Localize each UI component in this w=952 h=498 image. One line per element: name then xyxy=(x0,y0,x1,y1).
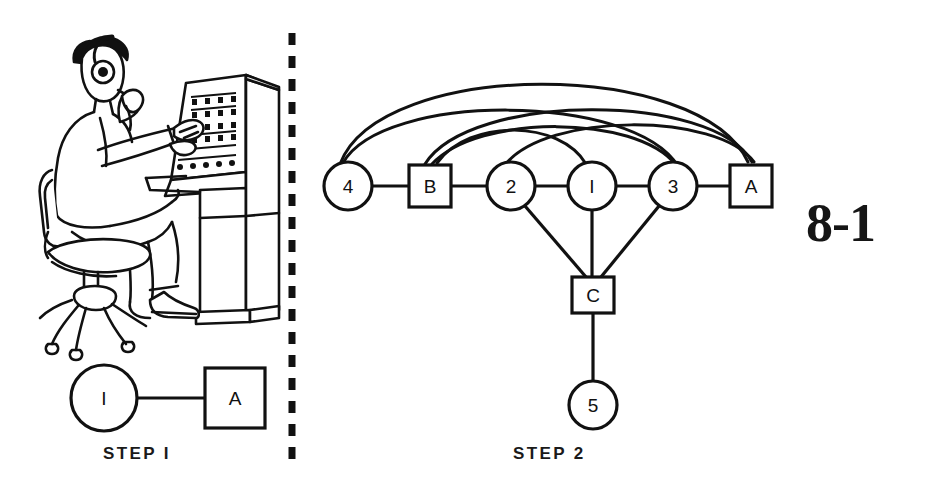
step2-node-C-label: C xyxy=(586,285,600,306)
figure-page: I A xyxy=(0,0,952,498)
step2-node-4-label: 4 xyxy=(343,176,354,197)
step1-caption: STEP I xyxy=(103,444,171,464)
step2-link-3-C xyxy=(601,206,659,277)
step2-caption: STEP 2 xyxy=(513,444,586,464)
figure-number: 8-1 xyxy=(806,196,875,250)
step2-node-B-label: B xyxy=(424,176,437,197)
step2-node-5-label: 5 xyxy=(588,395,599,416)
step2-node-2-label: 2 xyxy=(506,176,517,197)
step2-node-A-label: A xyxy=(745,176,758,197)
step2-link-2-C xyxy=(525,206,586,277)
step2-node-1-label: I xyxy=(589,176,594,197)
step2-node-3-label: 3 xyxy=(668,176,679,197)
